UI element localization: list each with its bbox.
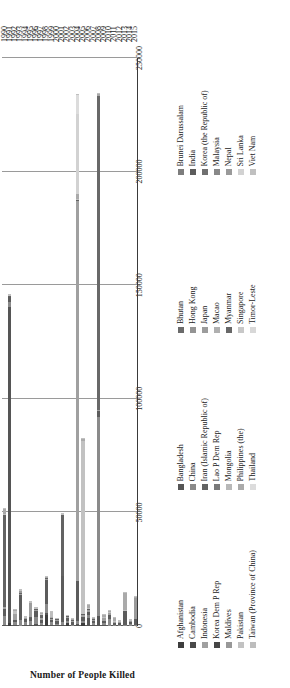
legend-item[interactable]: Iran (Islamic Republic of) xyxy=(200,343,210,491)
bar-row xyxy=(24,58,27,626)
legend-item[interactable]: Nepal xyxy=(224,28,234,176)
bar-segment xyxy=(81,614,84,616)
bar-segment xyxy=(102,623,105,625)
bar-row xyxy=(97,58,100,626)
legend-swatch-icon xyxy=(214,327,220,333)
legend-item-label: Taiwan (Province of China) xyxy=(248,550,258,639)
legend-item[interactable]: Taiwan (Province of China) xyxy=(248,501,258,649)
bar-segment xyxy=(19,620,22,626)
bar-segment xyxy=(102,625,105,626)
bar-segment xyxy=(19,590,22,591)
bar-segment xyxy=(76,624,79,626)
bar-row xyxy=(50,58,53,626)
bar-row xyxy=(40,58,43,626)
legend-item[interactable]: Pakistan xyxy=(236,501,246,649)
bar-segment xyxy=(76,201,79,202)
bar-segment xyxy=(3,515,6,607)
bar-segment xyxy=(55,624,58,626)
legend-item[interactable]: China xyxy=(188,343,198,491)
legend-item[interactable]: Maldives xyxy=(224,501,234,649)
legend-swatch-icon xyxy=(238,642,244,648)
bar-segment xyxy=(102,615,105,617)
legend-item[interactable]: India xyxy=(188,28,198,176)
legend-item[interactable]: Sri Lanka xyxy=(236,28,246,176)
legend-item[interactable]: Cambodia xyxy=(188,501,198,649)
bar-segment xyxy=(71,620,74,621)
bar-segment xyxy=(34,610,37,611)
legend-column: Brunei DarussalamIndiaKorea (the Republi… xyxy=(176,28,286,176)
bar-segment xyxy=(97,410,100,411)
bar-segment xyxy=(108,613,111,614)
bar-row xyxy=(8,58,11,626)
bar-segment xyxy=(71,621,74,622)
legend-item[interactable]: Thailand xyxy=(248,343,258,491)
legend-item[interactable]: Indonesia xyxy=(200,501,210,649)
bar-segment xyxy=(55,621,58,624)
bar-segment xyxy=(71,622,74,625)
legend-item[interactable]: Philippines (the) xyxy=(236,343,246,491)
bar-segment xyxy=(24,625,27,626)
bar-segment xyxy=(34,611,37,617)
legend-swatch-icon xyxy=(214,170,220,176)
legend-item-label: Korea (the Republic of) xyxy=(200,90,210,166)
legend-item[interactable]: Hong Kong xyxy=(188,186,198,334)
legend-item[interactable]: Japan xyxy=(200,186,210,334)
legend-item[interactable]: Viet Nam xyxy=(248,28,258,176)
bar-segment xyxy=(19,591,22,593)
bar-segment xyxy=(40,620,43,623)
legend-item[interactable]: Singapore xyxy=(236,186,246,334)
legend-swatch-icon xyxy=(202,170,208,176)
legend-item[interactable]: Brunei Darussalam xyxy=(176,28,186,176)
bar-segment xyxy=(40,615,43,619)
bar-segment xyxy=(81,439,84,441)
bar-segment xyxy=(97,616,100,626)
legend-item[interactable]: Mongolia xyxy=(224,343,234,491)
bar-row xyxy=(81,58,84,626)
legend-item-label: Bhutan xyxy=(176,301,186,324)
bar-segment xyxy=(123,610,126,611)
legend-item-label: Iran (Islamic Republic of) xyxy=(200,398,210,481)
legend-swatch-icon xyxy=(226,642,232,648)
legend-item[interactable]: Bhutan xyxy=(176,186,186,334)
legend-item[interactable]: Korea Dem P Rep xyxy=(212,501,222,649)
bar-segment xyxy=(24,617,27,618)
legend-item[interactable]: Timor-Leste xyxy=(248,186,258,334)
bar-segment xyxy=(92,620,95,621)
legend-swatch-icon xyxy=(238,327,244,333)
bar-segment xyxy=(81,615,84,617)
bar-row xyxy=(76,58,79,626)
bar-segment xyxy=(3,616,6,625)
bar-segment xyxy=(13,620,16,622)
legend-item[interactable]: Myanmar xyxy=(224,186,234,334)
bar-segment xyxy=(118,623,121,625)
legend-item-label: Mongolia xyxy=(224,450,234,481)
legend-item[interactable]: Bangladesh xyxy=(176,343,186,491)
legend-item-label: Bangladesh xyxy=(176,444,186,481)
legend-item-label: Malaysia xyxy=(212,137,222,166)
bar-segment xyxy=(76,194,79,199)
bar-segment xyxy=(19,594,22,595)
legend-item-label: Hong Kong xyxy=(188,286,198,324)
bar-segment xyxy=(13,614,16,615)
bar-segment xyxy=(123,625,126,626)
legend-swatch-icon xyxy=(190,170,196,176)
legend-item[interactable]: Korea (the Republic of) xyxy=(200,28,210,176)
legend-item-label: China xyxy=(188,462,198,481)
bar-segment xyxy=(113,618,116,622)
legend-item[interactable]: Malaysia xyxy=(212,28,222,176)
legend-swatch-icon xyxy=(178,642,184,648)
bar-segment xyxy=(8,303,11,308)
bar-row xyxy=(55,58,58,626)
legend-item[interactable]: Afghanistan xyxy=(176,501,186,649)
bar-segment xyxy=(66,618,69,621)
bar-segment xyxy=(92,623,95,625)
bar-segment xyxy=(97,96,100,410)
bar-segment xyxy=(97,410,100,411)
legend-item-label: Singapore xyxy=(236,292,246,324)
legend-item-label: Korea Dem P Rep xyxy=(212,581,222,639)
legend-item[interactable]: Macao xyxy=(212,186,222,334)
legend-item[interactable]: Lao P Dem Rep xyxy=(212,343,222,491)
bar-segment xyxy=(3,607,6,609)
legend-column: BangladeshChinaIran (Islamic Republic of… xyxy=(176,343,286,491)
legend-swatch-icon xyxy=(250,327,256,333)
